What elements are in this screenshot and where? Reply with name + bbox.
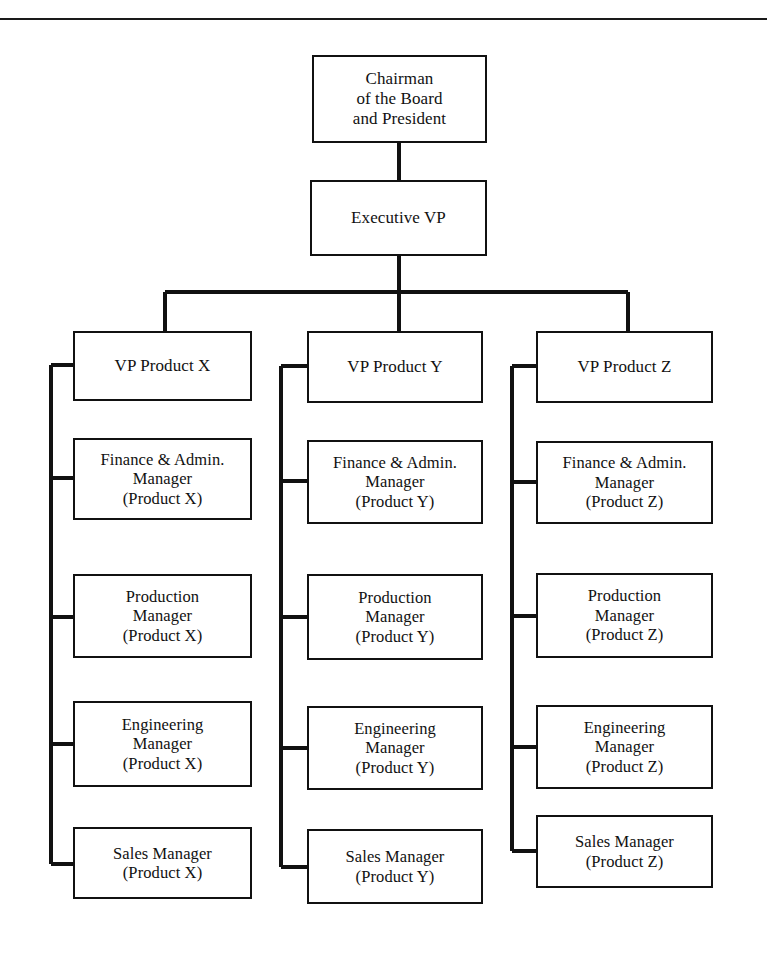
node-production-manager-y-line-2: Manager	[365, 607, 424, 626]
node-finance-admin-manager-y[interactable]: Finance & Admin. Manager (Product Y)	[307, 440, 483, 524]
node-finance-admin-manager-z-line-1: Finance & Admin.	[563, 453, 687, 472]
node-production-manager-x-line-3: (Product X)	[123, 626, 202, 645]
node-production-manager-z[interactable]: Production Manager (Product Z)	[536, 573, 713, 658]
node-production-manager-z-line-3: (Product Z)	[586, 625, 664, 644]
node-vp-product-x-label: VP Product X	[115, 356, 211, 376]
node-engineering-manager-z-line-1: Engineering	[584, 718, 666, 737]
node-production-manager-x-line-1: Production	[126, 587, 199, 606]
node-finance-admin-manager-x[interactable]: Finance & Admin. Manager (Product X)	[73, 438, 252, 520]
node-chairman[interactable]: Chairman of the Board and President	[312, 55, 487, 143]
node-sales-manager-y-line-2: (Product Y)	[356, 867, 435, 886]
node-sales-manager-y-line-1: Sales Manager	[346, 847, 445, 866]
node-production-manager-y-line-3: (Product Y)	[356, 627, 435, 646]
node-sales-manager-y[interactable]: Sales Manager (Product Y)	[307, 829, 483, 904]
node-engineering-manager-x[interactable]: Engineering Manager (Product X)	[73, 701, 252, 787]
node-engineering-manager-y-line-3: (Product Y)	[356, 758, 435, 777]
node-engineering-manager-y-line-2: Manager	[365, 738, 424, 757]
node-finance-admin-manager-x-line-1: Finance & Admin.	[101, 450, 225, 469]
node-engineering-manager-z-line-3: (Product Z)	[586, 757, 664, 776]
node-sales-manager-x[interactable]: Sales Manager (Product X)	[73, 827, 252, 899]
node-vp-product-y-label: VP Product Y	[347, 357, 442, 377]
node-engineering-manager-x-line-2: Manager	[133, 734, 192, 753]
node-vp-product-z[interactable]: VP Product Z	[536, 331, 713, 403]
node-finance-admin-manager-x-line-2: Manager	[133, 469, 192, 488]
node-production-manager-y-line-1: Production	[358, 588, 431, 607]
node-production-manager-z-line-1: Production	[588, 586, 661, 605]
node-vp-product-x[interactable]: VP Product X	[73, 331, 252, 401]
node-executive-vp[interactable]: Executive VP	[310, 180, 487, 256]
node-sales-manager-z[interactable]: Sales Manager (Product Z)	[536, 815, 713, 888]
node-finance-admin-manager-z-line-3: (Product Z)	[586, 492, 664, 511]
node-sales-manager-z-line-2: (Product Z)	[586, 852, 664, 871]
node-finance-admin-manager-z-line-2: Manager	[595, 473, 654, 492]
node-sales-manager-x-line-2: (Product X)	[123, 863, 202, 882]
node-engineering-manager-x-line-1: Engineering	[122, 715, 204, 734]
node-engineering-manager-z-line-2: Manager	[595, 737, 654, 756]
node-finance-admin-manager-y-line-3: (Product Y)	[356, 492, 435, 511]
header-divider	[0, 18, 767, 20]
node-executive-vp-label: Executive VP	[351, 208, 446, 228]
node-finance-admin-manager-x-line-3: (Product X)	[123, 489, 202, 508]
node-engineering-manager-y-line-1: Engineering	[354, 719, 436, 738]
node-finance-admin-manager-y-line-2: Manager	[365, 472, 424, 491]
node-engineering-manager-y[interactable]: Engineering Manager (Product Y)	[307, 706, 483, 790]
node-chairman-line-1: Chairman	[366, 69, 434, 89]
node-sales-manager-x-line-1: Sales Manager	[113, 844, 212, 863]
node-vp-product-y[interactable]: VP Product Y	[307, 331, 483, 403]
node-production-manager-y[interactable]: Production Manager (Product Y)	[307, 574, 483, 660]
org-chart-page: Chairman of the Board and President Exec…	[0, 0, 767, 955]
node-chairman-line-2: of the Board	[356, 89, 442, 109]
node-finance-admin-manager-z[interactable]: Finance & Admin. Manager (Product Z)	[536, 441, 713, 524]
node-production-manager-x[interactable]: Production Manager (Product X)	[73, 574, 252, 658]
node-vp-product-z-label: VP Product Z	[577, 357, 671, 377]
node-sales-manager-z-line-1: Sales Manager	[575, 832, 674, 851]
node-engineering-manager-z[interactable]: Engineering Manager (Product Z)	[536, 705, 713, 789]
node-chairman-line-3: and President	[353, 109, 446, 129]
node-engineering-manager-x-line-3: (Product X)	[123, 754, 202, 773]
node-finance-admin-manager-y-line-1: Finance & Admin.	[333, 453, 457, 472]
node-production-manager-z-line-2: Manager	[595, 606, 654, 625]
node-production-manager-x-line-2: Manager	[133, 606, 192, 625]
